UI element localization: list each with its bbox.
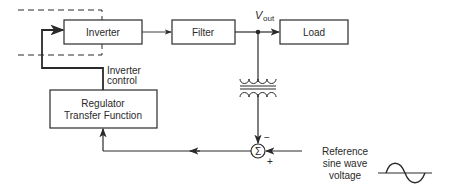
- vout-subscript: out: [263, 14, 275, 23]
- inverter-control-label-line2: control: [107, 75, 137, 86]
- inverter-label: Inverter: [86, 27, 121, 38]
- minus-sign: −: [264, 132, 270, 143]
- filter-label: Filter: [192, 27, 215, 38]
- block-diagram: Inverter Filter Load Regulator Transfer …: [0, 0, 461, 191]
- regulator-label-line1: Regulator: [81, 98, 125, 109]
- regulator-block: Regulator Transfer Function: [50, 90, 157, 128]
- regulator-label-line2: Transfer Function: [64, 110, 142, 121]
- filter-block: Filter: [172, 20, 235, 44]
- sigma-symbol: Σ: [255, 146, 261, 157]
- load-label: Load: [303, 27, 325, 38]
- load-block: Load: [280, 20, 348, 44]
- plus-sign: +: [267, 156, 273, 167]
- sine-wave-icon: [378, 163, 432, 183]
- reference-label-line2: sine wave: [323, 158, 368, 169]
- junction-dot: [256, 30, 261, 35]
- summing-junction: Σ: [251, 144, 265, 158]
- inverter-block: Inverter: [64, 20, 142, 44]
- reference-label-line1: Reference: [322, 146, 369, 157]
- reference-label-line3: voltage: [329, 170, 362, 181]
